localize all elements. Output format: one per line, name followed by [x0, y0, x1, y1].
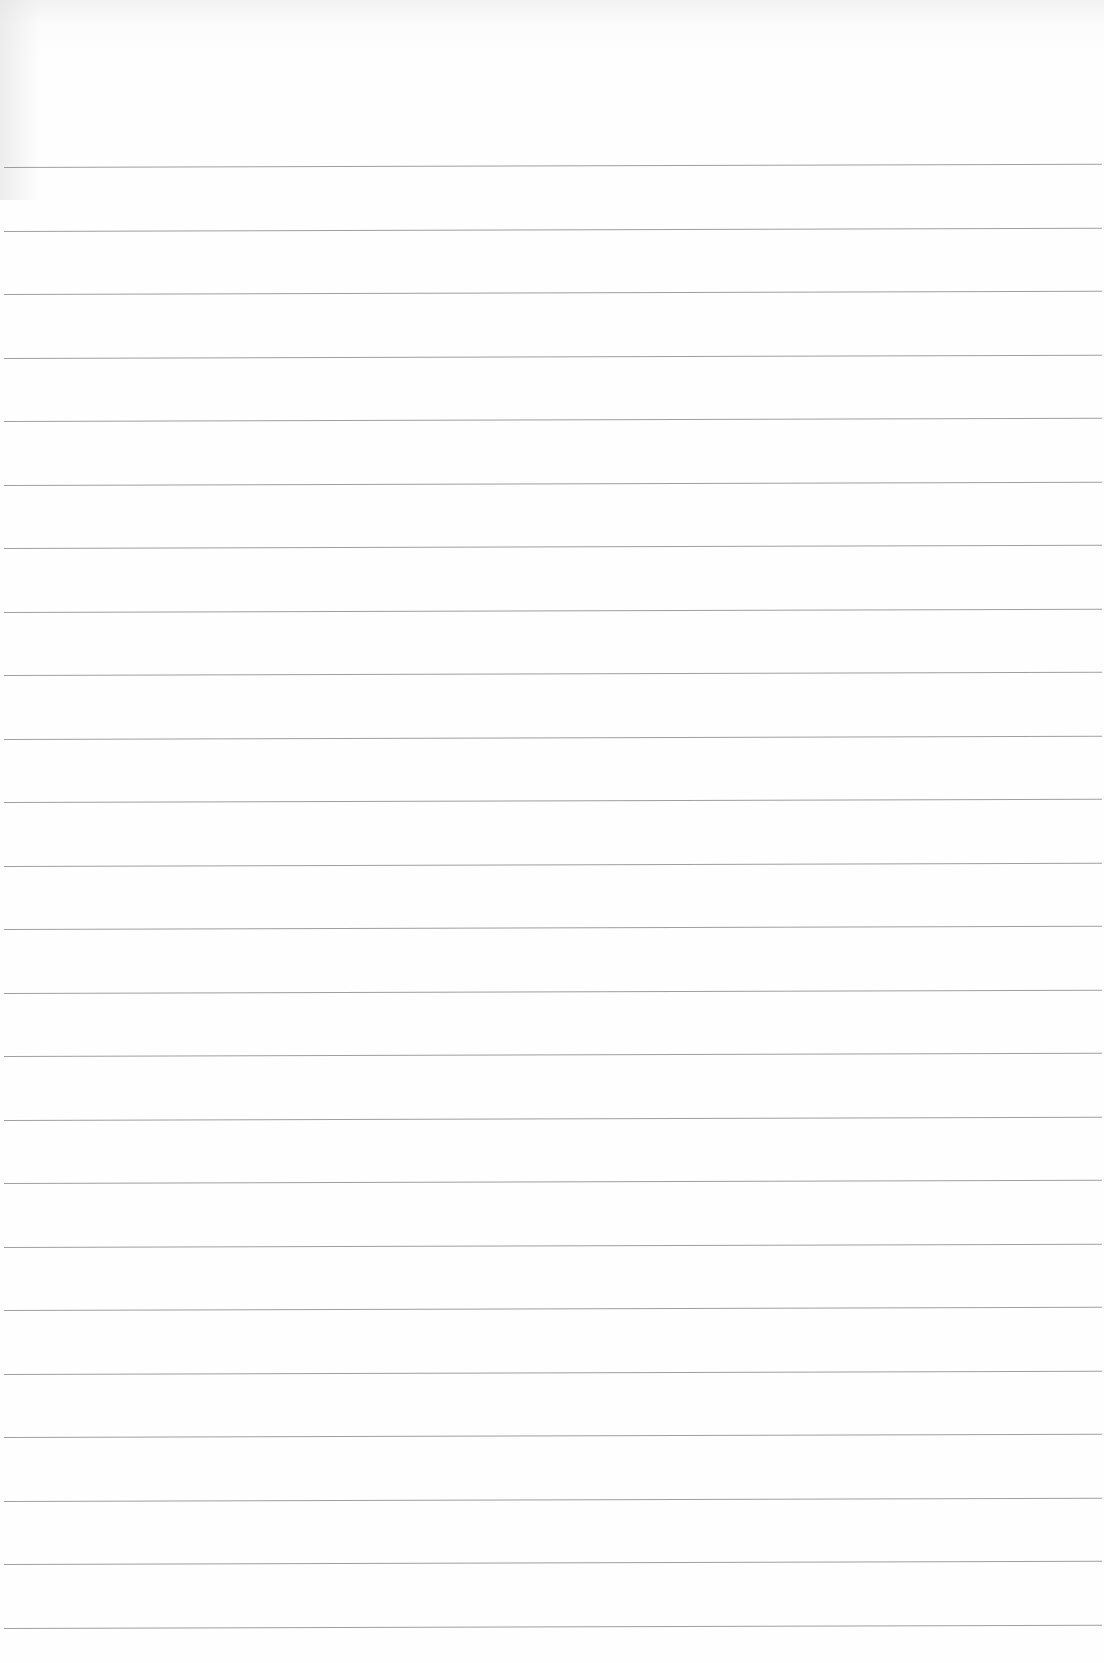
ruled-line	[4, 799, 1102, 803]
ruled-line	[4, 672, 1102, 676]
ruled-line	[4, 1307, 1102, 1311]
ruled-line	[4, 863, 1102, 867]
ruled-line	[4, 482, 1102, 486]
ruled-line	[4, 164, 1102, 168]
ruled-line	[4, 1053, 1102, 1057]
ruled-line	[4, 1498, 1102, 1502]
ruled-line	[4, 1180, 1102, 1184]
ruled-line	[4, 609, 1102, 613]
ruled-line	[4, 926, 1102, 930]
ruled-line	[4, 418, 1102, 422]
ruled-line	[4, 545, 1102, 549]
ruled-line	[4, 1371, 1102, 1375]
ruled-line	[4, 1244, 1102, 1248]
ruled-line	[4, 1561, 1102, 1565]
ruled-line	[4, 291, 1102, 295]
ruled-line	[4, 1434, 1102, 1438]
lined-paper-sheet	[0, 0, 1104, 1663]
ruled-line	[4, 736, 1102, 740]
paper-edge-shadow	[0, 0, 40, 200]
ruled-line	[4, 1625, 1102, 1629]
ruled-line	[4, 1117, 1102, 1121]
ruled-line	[4, 990, 1102, 994]
ruled-line	[4, 228, 1102, 232]
ruled-line	[4, 355, 1102, 359]
